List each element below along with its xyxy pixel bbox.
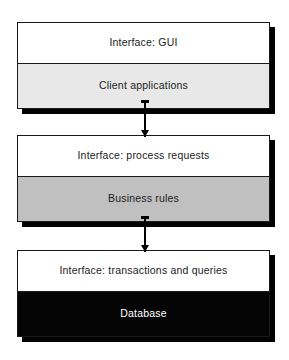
arrowhead-down-icon — [141, 130, 149, 137]
interface-label-client: Interface: GUI — [109, 37, 177, 49]
tier-database: Interface: transactions and queries Data… — [17, 250, 270, 337]
interface-band-client: Interface: GUI — [18, 23, 269, 64]
arrow-business-to-database — [141, 219, 149, 252]
body-label-client: Client applications — [99, 80, 188, 92]
interface-band-database: Interface: transactions and queries — [18, 251, 269, 292]
three-tier-architecture-diagram: Interface: GUI Client applications Inter… — [0, 0, 289, 360]
body-band-database: Database — [18, 292, 269, 336]
body-label-database: Database — [120, 308, 167, 320]
arrowhead-down-icon — [141, 245, 149, 252]
body-band-business: Business rules — [18, 177, 269, 221]
tier-box: Interface: GUI Client applications — [17, 22, 270, 109]
arrow-client-to-business — [141, 103, 149, 137]
body-label-business: Business rules — [108, 193, 179, 205]
interface-label-database: Interface: transactions and queries — [59, 265, 227, 277]
tier-box: Interface: transactions and queries Data… — [17, 250, 270, 337]
tier-box: Interface: process requests Business rul… — [17, 135, 270, 222]
interface-label-business: Interface: process requests — [77, 150, 209, 162]
tier-client-applications: Interface: GUI Client applications — [17, 22, 270, 109]
interface-band-business: Interface: process requests — [18, 136, 269, 177]
tier-business-rules: Interface: process requests Business rul… — [17, 135, 270, 222]
